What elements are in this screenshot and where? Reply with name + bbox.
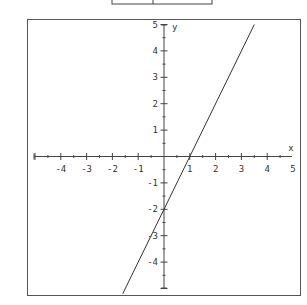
y-tick-label: 5: [153, 20, 158, 30]
y-tick-label: 1: [153, 125, 158, 135]
y-tick-label: -4: [147, 257, 158, 267]
y-tick-label: 4: [153, 46, 158, 56]
x-axis-label: x: [288, 143, 294, 153]
x-tick-label: -1: [133, 164, 144, 174]
top-table-fragment: [112, 0, 212, 4]
y-tick-label: 3: [153, 72, 158, 82]
x-tick-label: 1: [187, 164, 192, 174]
x-tick-label: -2: [107, 164, 118, 174]
y-tick-label: 2: [153, 99, 158, 109]
graph-canvas: -4-3-2-11234554321-1-2-3-4xy: [0, 0, 307, 305]
x-tick-label: 5: [290, 164, 295, 174]
x-tick-label: 4: [264, 164, 269, 174]
x-tick-label: 3: [239, 164, 244, 174]
x-tick-label: 2: [213, 164, 218, 174]
x-tick-label: -4: [55, 164, 66, 174]
y-axis-label: y: [172, 22, 178, 32]
y-tick-label: -1: [147, 178, 158, 188]
y-tick-label: -2: [147, 204, 158, 214]
x-tick-label: -3: [81, 164, 92, 174]
